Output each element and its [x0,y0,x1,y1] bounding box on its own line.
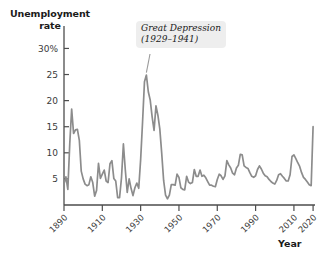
annotation-line-2: (1929–1941) [141,34,221,45]
y-tick-label: 5 [52,174,58,184]
annotation-leader-line [146,54,150,73]
x-tick-label: 1910 [85,212,107,234]
y-tick-label: 25 [47,70,58,80]
data-series-group [64,75,313,199]
annotation-line-1: Great Depression [141,23,221,34]
x-tick-label: 1890 [47,212,69,234]
x-tick-label: 2010 [277,212,299,234]
y-tick-label: 20 [47,96,59,106]
y-axis: 30%252015105 [38,26,69,205]
annotation-great-depression: Great Depression (1929–1941) [136,21,226,48]
y-tick-label: 10 [47,148,59,158]
x-tick-label: 1950 [162,212,184,234]
x-tick-label: 1970 [200,212,222,234]
chart-container: Unemployment rate 30%252015105 189019101… [0,0,326,256]
x-axis-title: Year [278,238,302,249]
x-tick-label: 2020 [296,212,318,234]
series-line-unemployment-rate [64,75,313,199]
annotation-leader-line-group [146,54,150,73]
x-axis: 18901910193019501970199020102020 [47,205,318,235]
y-tick-label: 30% [38,44,58,54]
x-tick-label: 1930 [124,212,146,234]
y-tick-label: 15 [47,122,58,132]
x-tick-label: 1990 [239,212,261,234]
